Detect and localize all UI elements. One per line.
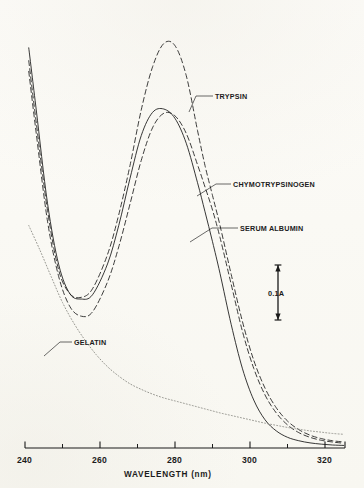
x-axis-title: WAVELENGTH (nm)	[124, 470, 212, 479]
series-label-chymotrypsinogen: CHYMOTRYPSINOGEN	[233, 180, 315, 189]
leader-trypsin	[189, 96, 213, 112]
x-axis	[25, 442, 345, 449]
spectra-figure: TRYPSIN CHYMOTRYPSINOGEN SERUM ALBUMIN G…	[0, 0, 364, 488]
x-tick-label-280: 280	[167, 455, 182, 465]
curve-trypsin	[29, 41, 344, 442]
curve-chymotrypsinogen	[29, 71, 344, 443]
series-label-trypsin: TRYPSIN	[215, 92, 247, 101]
curve-gelatin	[29, 225, 344, 434]
curve-serum-albumin	[29, 48, 344, 446]
series-label-gelatin: GELATIN	[74, 338, 106, 347]
curves-group	[29, 41, 344, 445]
leader-serum-albumin	[190, 228, 238, 242]
x-tick-label-260: 260	[92, 455, 107, 465]
x-tick-label-320: 320	[317, 455, 332, 465]
leader-gelatin	[44, 342, 72, 356]
spectra-plot	[0, 0, 364, 488]
scale-bar-arrowhead-down	[275, 314, 280, 321]
x-tick-label-300: 300	[242, 455, 257, 465]
x-tick-label-240: 240	[17, 455, 32, 465]
series-label-serum-albumin: SERUM ALBUMIN	[240, 224, 303, 233]
leader-chymotrypsinogen	[197, 184, 231, 196]
scale-bar-arrowhead-up	[275, 265, 280, 272]
scale-bar-label: 0.1A	[268, 289, 284, 298]
